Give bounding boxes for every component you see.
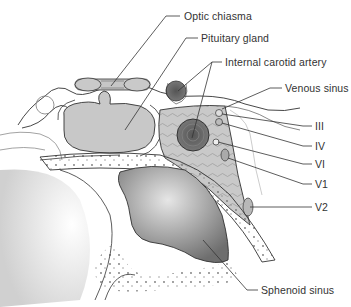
left-sinus	[0, 169, 90, 307]
nerve-iv	[216, 119, 223, 126]
pituitary-gland	[58, 91, 162, 156]
label-cn-iii: III	[315, 120, 324, 132]
label-optic-chiasma: Optic chiasma	[184, 10, 252, 22]
internal-carotid-artery-upper	[166, 81, 187, 104]
label-venous-sinus: Venous sinus	[285, 82, 349, 94]
diagram-artwork	[0, 0, 351, 307]
label-internal-carotid-artery: Internal carotid artery	[225, 56, 327, 68]
label-pituitary-gland: Pituitary gland	[201, 32, 269, 44]
anatomy-diagram: Optic chiasma Pituitary gland Internal c…	[0, 0, 351, 307]
label-sphenoid-sinus: Sphenoid sinus	[261, 284, 334, 296]
nerve-v1	[221, 149, 229, 161]
label-cn-v2: V2	[315, 201, 328, 213]
label-cn-vi: VI	[315, 158, 325, 170]
nerve-iii	[216, 110, 223, 117]
label-cn-iv: IV	[315, 140, 325, 152]
label-cn-v1: V1	[315, 178, 328, 190]
